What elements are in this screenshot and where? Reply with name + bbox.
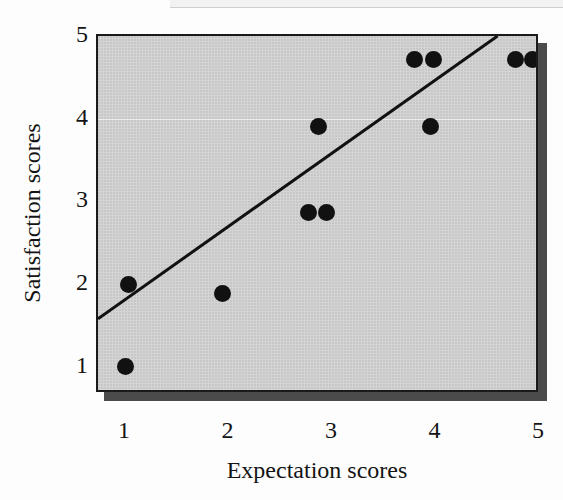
x-axis-tick-label: 1 [118,417,130,444]
data-point [120,276,137,293]
scatter-plot-figure: 12345 12345 Satisfaction scores Expectat… [0,0,563,500]
y-axis-tick-label: 4 [76,103,88,130]
data-point [406,51,423,68]
y-axis-tick-label: 3 [76,186,88,213]
data-point [524,51,538,68]
x-axis-tick-label: 4 [428,417,440,444]
x-axis-title: Expectation scores [227,457,408,484]
plot-area [96,34,538,392]
data-point [425,51,442,68]
y-axis-title: Satisfaction scores [19,123,46,302]
data-point [300,204,317,221]
y-axis-tick-label: 1 [76,351,88,378]
x-axis-tick-label: 5 [532,417,544,444]
y-axis-tick-label: 5 [76,21,88,48]
x-axis-tick-label: 2 [221,417,233,444]
trendline [98,36,498,319]
x-axis-tick-label: 3 [325,417,337,444]
page-top-band [170,0,563,8]
data-point [507,51,524,68]
y-axis-tick-label: 2 [76,269,88,296]
